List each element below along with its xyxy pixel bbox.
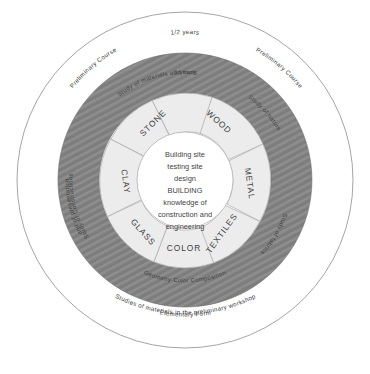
core-line-3: design xyxy=(174,174,196,183)
segment-label-color: COLOR xyxy=(167,243,201,253)
core-line-1: Building site xyxy=(165,150,205,159)
core-line-2: testing site xyxy=(167,162,202,171)
bauhaus-curriculum-wheel: STONE WOOD METAL TEXTILES COLOR GLASS CL… xyxy=(0,0,370,374)
core-line-4: BUILDING xyxy=(168,186,203,195)
core-line-7: engineering xyxy=(166,222,205,231)
core-line-6: construction and xyxy=(158,210,212,219)
core-line-5: knowledge of xyxy=(163,198,208,207)
outer-label-half-years: 1/2 years xyxy=(170,28,200,36)
